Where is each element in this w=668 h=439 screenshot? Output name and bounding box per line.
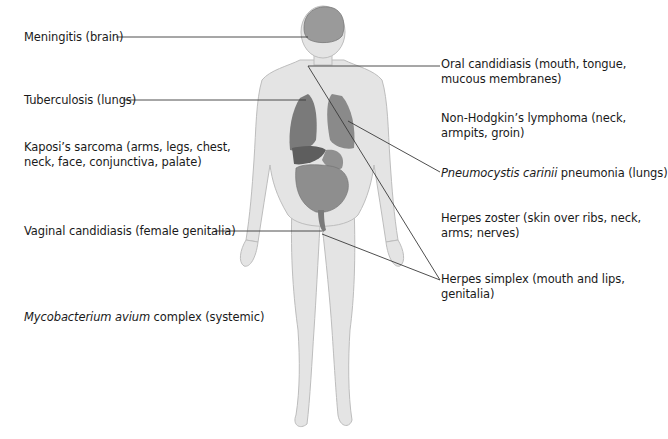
label-text: Meningitis (brain) <box>24 30 123 44</box>
label-pcp: Pneumocystis carinii pneumonia (lungs) <box>441 166 668 181</box>
label-line: Kaposi’s sarcoma (arms, legs, chest, <box>24 140 231 155</box>
label-oral-candidiasis: Oral candidiasis (mouth, tongue, mucous … <box>441 57 626 87</box>
label-meningitis: Meningitis (brain) <box>24 30 123 45</box>
label-line: Herpes zoster (skin over ribs, neck, <box>441 211 641 226</box>
label-line: mucous membranes) <box>441 72 626 87</box>
label-line: genitalia) <box>441 287 625 302</box>
label-text: Tuberculosis (lungs) <box>24 93 136 107</box>
label-herpes-simplex: Herpes simplex (mouth and lips, genitali… <box>441 272 625 302</box>
label-line: Herpes simplex (mouth and lips, <box>441 272 625 287</box>
label-line: arms; nerves) <box>441 226 641 241</box>
label-italic: Pneumocystis carinii <box>441 166 557 180</box>
label-line: Non-Hodgkin’s lymphoma (neck, <box>441 111 626 126</box>
label-kaposi: Kaposi’s sarcoma (arms, legs, chest, nec… <box>24 140 231 170</box>
label-text: Vaginal candidiasis (female genitalia) <box>24 224 236 238</box>
label-mac: Mycobacterium avium complex (systemic) <box>24 310 264 325</box>
label-line: neck, face, conjunctiva, palate) <box>24 155 231 170</box>
label-herpes-zoster: Herpes zoster (skin over ribs, neck, arm… <box>441 211 641 241</box>
label-line: armpits, groin) <box>441 126 626 141</box>
label-tuberculosis: Tuberculosis (lungs) <box>24 93 136 108</box>
label-nhl: Non-Hodgkin’s lymphoma (neck, armpits, g… <box>441 111 626 141</box>
label-text: complex (systemic) <box>150 310 264 324</box>
brain <box>304 7 344 43</box>
label-vaginal-candidiasis: Vaginal candidiasis (female genitalia) <box>24 224 236 239</box>
label-text: pneumonia (lungs) <box>557 166 667 180</box>
label-line: Oral candidiasis (mouth, tongue, <box>441 57 626 72</box>
label-italic: Mycobacterium avium <box>24 310 150 324</box>
